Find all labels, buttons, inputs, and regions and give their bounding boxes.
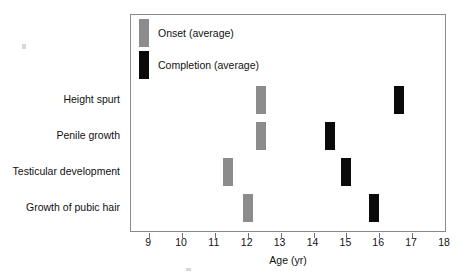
legend-label-completion: Completion (average): [158, 60, 259, 71]
legend-swatch-completion-icon: [139, 51, 149, 79]
legend-swatch-onset-icon: [139, 19, 149, 47]
legend-item-onset: Onset (average): [139, 19, 234, 47]
bar-onset-penile-growth: [256, 122, 266, 150]
bar-onset-growth-of-pubic-hair: [243, 194, 253, 222]
puberty-timeline-chart: Height spurt Penile growth Testicular de…: [0, 0, 469, 279]
x-axis-title: Age (yr): [130, 254, 446, 266]
x-tick-label-10: 10: [175, 236, 187, 248]
x-tick-label-11: 11: [208, 236, 219, 248]
legend-label-onset: Onset (average): [158, 28, 234, 39]
bar-completion-testicular-development: [341, 158, 351, 186]
category-label-height-spurt: Height spurt: [63, 93, 120, 105]
bar-completion-height-spurt: [394, 86, 404, 114]
category-label-growth-of-pubic-hair: Growth of pubic hair: [26, 201, 120, 213]
plot-area: Onset (average) Completion (average): [130, 14, 446, 232]
bar-onset-testicular-development: [223, 158, 233, 186]
x-tick-label-9: 9: [145, 236, 151, 248]
bar-completion-penile-growth: [325, 122, 335, 150]
x-tick-label-17: 17: [405, 236, 417, 248]
bar-completion-growth-of-pubic-hair: [369, 194, 379, 222]
bar-onset-height-spurt: [256, 86, 266, 114]
x-tick-label-12: 12: [241, 236, 253, 248]
x-tick-label-15: 15: [340, 236, 352, 248]
x-tick-label-16: 16: [372, 236, 384, 248]
x-tick-label-14: 14: [307, 236, 319, 248]
legend-item-completion: Completion (average): [139, 51, 259, 79]
category-label-penile-growth: Penile growth: [56, 129, 120, 141]
scan-speckle: [186, 268, 191, 271]
x-tick-label-13: 13: [274, 236, 286, 248]
x-tick-label-18: 18: [438, 236, 450, 248]
category-axis-labels: Height spurt Penile growth Testicular de…: [0, 0, 124, 279]
category-label-testicular-development: Testicular development: [13, 165, 120, 177]
